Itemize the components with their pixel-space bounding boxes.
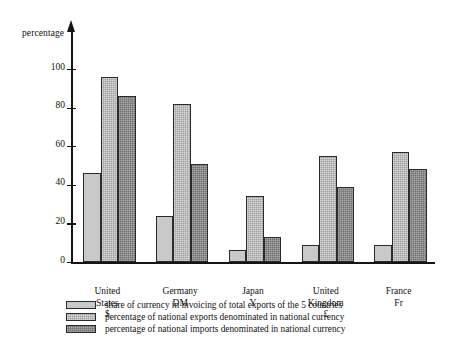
legend-item: share of currency in invoicing of total … bbox=[66, 299, 345, 311]
bar bbox=[191, 164, 209, 262]
bar-group bbox=[229, 20, 282, 262]
y-tick-label: 100 bbox=[51, 62, 65, 72]
x-axis-label-line: United bbox=[289, 286, 362, 298]
x-axis-label-line: Germany bbox=[144, 286, 217, 298]
bar bbox=[392, 152, 410, 262]
bar bbox=[83, 173, 101, 262]
bar bbox=[173, 104, 191, 262]
bar-group bbox=[302, 20, 355, 262]
light-gray-swatch bbox=[66, 301, 96, 309]
y-tick-label: 60 bbox=[56, 139, 66, 149]
legend-item: percentage of national imports denominat… bbox=[66, 323, 345, 335]
bar bbox=[156, 216, 174, 262]
x-axis-label-france: FranceFr bbox=[362, 286, 435, 309]
bar-group bbox=[83, 20, 136, 262]
bar bbox=[337, 187, 355, 262]
x-axis-label-line: United bbox=[71, 286, 144, 298]
bar bbox=[409, 169, 427, 262]
y-tick-label: 80 bbox=[56, 100, 66, 110]
y-tick-label: 40 bbox=[56, 177, 66, 187]
legend-label: share of currency in invoicing of total … bbox=[105, 300, 342, 310]
y-axis-title: percentage bbox=[22, 28, 64, 38]
bar bbox=[319, 156, 337, 262]
bar bbox=[229, 250, 247, 262]
x-axis-label-line: France bbox=[362, 286, 435, 298]
y-tick-label: 20 bbox=[56, 216, 66, 226]
x-axis-label-line: Japan bbox=[217, 286, 290, 298]
dark-gray-swatch bbox=[66, 325, 96, 333]
bar-chart-figure: percentage 020406080100 UnitedStates$Ger… bbox=[0, 0, 457, 356]
bar-group bbox=[156, 20, 209, 262]
legend-label: percentage of national exports denominat… bbox=[105, 312, 344, 322]
bar-group bbox=[374, 20, 427, 262]
currency-symbol: Fr bbox=[362, 298, 435, 310]
medium-gray-swatch bbox=[66, 313, 96, 321]
bar bbox=[264, 237, 282, 262]
chart-legend: share of currency in invoicing of total … bbox=[66, 299, 345, 336]
bar bbox=[101, 77, 119, 262]
legend-item: percentage of national exports denominat… bbox=[66, 311, 345, 323]
bars-layer bbox=[71, 20, 435, 263]
bar bbox=[374, 245, 392, 262]
legend-label: percentage of national imports denominat… bbox=[105, 324, 345, 334]
bar bbox=[302, 245, 320, 262]
bar bbox=[118, 96, 136, 262]
plot-area: 020406080100 UnitedStates$GermanyDMJapan… bbox=[71, 20, 435, 263]
bar bbox=[246, 196, 264, 262]
y-tick-label: 0 bbox=[60, 255, 65, 265]
